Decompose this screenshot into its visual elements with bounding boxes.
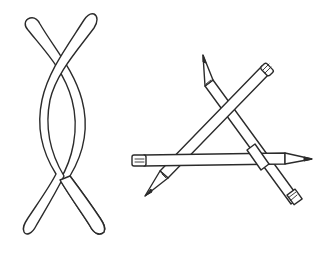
illustration-canvas (0, 0, 326, 254)
pencil-3 (132, 153, 312, 166)
twisted-band (23, 14, 105, 234)
pencil-triangle (132, 55, 312, 205)
band-strip-weave (60, 176, 105, 234)
